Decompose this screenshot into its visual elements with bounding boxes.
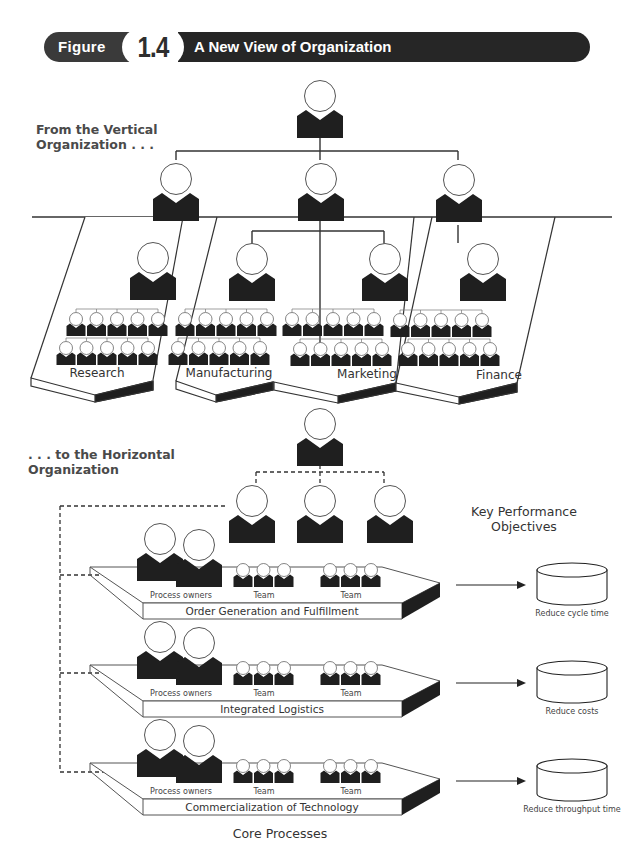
team-label: Team [252,787,274,796]
staff-figure [460,343,479,367]
head-manufacturing-figure [229,244,275,302]
staff-group-2 [283,309,392,366]
team-label: Team [339,689,361,698]
arrow-head-icon [517,679,526,687]
objective-cylinder-icon [537,759,607,801]
objective-label: Reduce costs [546,707,599,716]
staff-figure [411,314,430,338]
staff-figure [196,313,215,337]
staff-figure [419,343,438,367]
dept-label-finance: Finance [476,368,522,382]
objective-label: Reduce throughput time [523,805,621,814]
team-label: Team [252,591,274,600]
staff-figure [473,314,492,338]
staff-figure [303,313,322,337]
head-finance-figure [460,244,506,302]
process-name: Order Generation and Fulfillment [185,605,358,617]
core-process-rows: TeamTeamProcess ownersOrder Generation a… [90,524,621,816]
staff-figure [189,342,208,366]
staff-figure [432,314,451,338]
staff-figure [399,343,418,367]
staff-figure [283,313,302,337]
staff-group-3 [391,310,500,366]
process-row: TeamTeamProcess ownersIntegrated Logisti… [90,622,607,718]
staff-figure [332,343,351,367]
head-marketing-figure [362,244,408,302]
dept-label-manufacturing: Manufacturing [186,366,273,380]
staff-figure [258,313,277,337]
dept-label-marketing: Marketing [337,367,397,381]
dept-label-research: Research [69,366,124,380]
exec-team-figure-1 [229,486,275,544]
staff-figure [291,343,310,367]
staff-figure [352,343,371,367]
staff-figure [481,343,500,367]
exec-team-figure-2 [297,486,343,544]
vp-operations-figure [298,164,344,222]
staff-figure [440,343,459,367]
process-name: Commercialization of Technology [185,801,358,813]
staff-group-1 [169,309,277,365]
staff-figure [230,342,249,366]
process-owners-label: Process owners [150,689,212,698]
vp-finance-figure [436,165,482,223]
staff-figure [237,313,256,337]
staff-figure [452,314,471,338]
team-label: Team [252,689,274,698]
exec-team-figure-3 [367,486,413,544]
process-owner-figure [176,726,222,784]
ceo-figure [297,81,343,139]
process-name: Integrated Logistics [220,703,324,715]
process-owner-figure [176,628,222,686]
arrow-head-icon [517,777,526,785]
exec-figure [297,409,343,467]
objective-label: Reduce cycle time [535,609,609,618]
objective-cylinder-icon [537,661,607,703]
objective-cylinder-icon [537,563,607,605]
process-row: TeamTeamProcess ownersOrder Generation a… [90,524,609,620]
process-owners-label: Process owners [150,591,212,600]
staff-figure [210,342,229,366]
org-diagram-svg: Research Manufacturing Marketing Finance [0,0,640,858]
staff-figure [344,313,363,337]
arrow-head-icon [517,581,526,589]
process-owner-figure [176,530,222,588]
staff-figure [324,313,343,337]
staff-figure [365,313,384,337]
horizontal-org: TeamTeamProcess ownersOrder Generation a… [60,409,621,816]
staff-figure [311,343,330,367]
process-owners-label: Process owners [150,787,212,796]
team-label: Team [339,591,361,600]
process-row: TeamTeamProcess ownersCommercialization … [90,720,621,816]
vp-research-figure [153,164,199,222]
team-label: Team [339,787,361,796]
staff-figure [373,343,392,367]
staff-figure [391,314,410,338]
staff-figure [217,313,236,337]
vertical-org: Research Manufacturing Marketing Finance [31,81,612,405]
staff-figure [251,342,270,366]
figure-diagram: Figure A New View of Organization 1.4 Fr… [0,0,640,858]
